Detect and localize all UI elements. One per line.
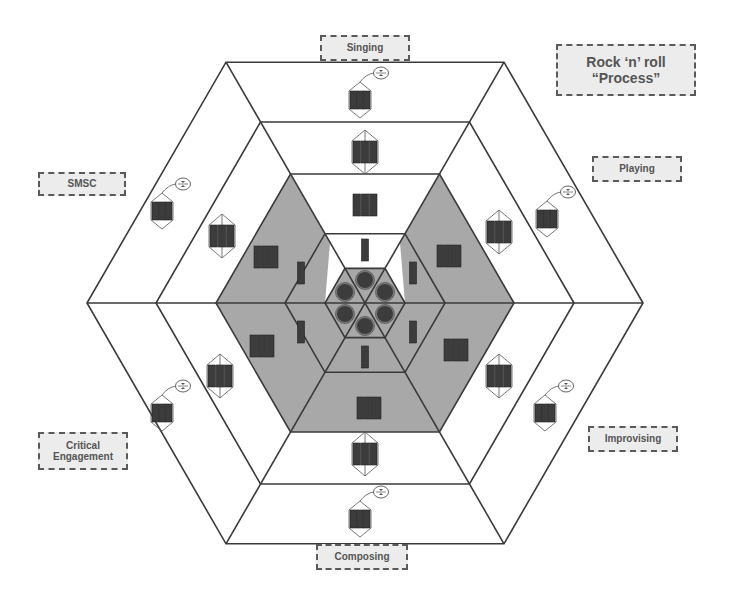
title-line-2: “Process”: [592, 70, 660, 86]
circle-token-icon: [336, 283, 355, 302]
circle-token-icon: [336, 305, 355, 324]
label-improvising-text: Improvising: [605, 433, 662, 445]
triple-bar-icon: [357, 397, 381, 419]
single-bar-icon: [410, 262, 417, 284]
label-singing: Singing: [320, 35, 410, 61]
triple-bar-icon: [254, 246, 278, 268]
linked-triple-bar-icon: [486, 210, 512, 254]
label-critical-engagement: Critical Engagement: [38, 432, 128, 470]
single-bar-icon: [298, 321, 305, 343]
single-bar-icon: [362, 239, 369, 261]
label-singing-text: Singing: [347, 42, 384, 54]
circle-token-icon: [376, 283, 395, 302]
label-playing: Playing: [592, 156, 682, 182]
linked-triple-bar-icon: [209, 214, 235, 258]
triple-bar-with-loop-icon: [349, 486, 389, 537]
linked-triple-bar-icon: [486, 354, 512, 398]
single-bar-icon: [298, 262, 305, 284]
triple-bar-icon: [353, 194, 377, 216]
label-critical-text: Critical: [66, 440, 100, 452]
linked-triple-bar-icon: [207, 354, 233, 398]
label-composing: Composing: [316, 544, 408, 570]
triple-bar-with-loop-icon: [536, 186, 576, 237]
linked-triple-bar-icon: [352, 130, 378, 174]
label-composing-text: Composing: [335, 551, 390, 563]
triple-bar-icon: [444, 339, 468, 361]
label-smsc-text: SMSC: [68, 178, 97, 190]
triple-bar-with-loop-icon: [151, 178, 191, 229]
label-engagement-text: Engagement: [53, 451, 113, 463]
triple-bar-icon: [250, 335, 274, 357]
triple-bar-with-loop-icon: [534, 380, 574, 431]
title-line-1: Rock ‘n’ roll: [586, 54, 665, 70]
label-smsc: SMSC: [38, 172, 126, 196]
circle-token-icon: [356, 271, 375, 290]
label-improvising: Improvising: [588, 426, 678, 452]
single-bar-icon: [362, 346, 369, 368]
triple-bar-icon: [437, 245, 461, 267]
triple-bar-with-loop-icon: [349, 67, 389, 118]
single-bar-icon: [410, 321, 417, 343]
linked-triple-bar-icon: [352, 432, 378, 476]
label-playing-text: Playing: [619, 163, 655, 175]
diagram-title: Rock ‘n’ roll “Process”: [556, 44, 696, 96]
circle-token-icon: [376, 305, 395, 324]
circle-token-icon: [356, 317, 375, 336]
